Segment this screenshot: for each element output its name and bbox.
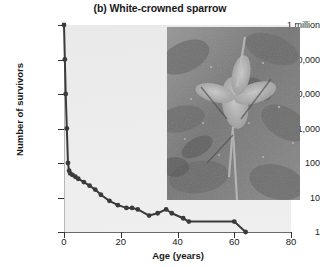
habitat-photograph (167, 27, 300, 200)
x-tick-mark (178, 232, 179, 238)
y-axis-line (64, 25, 65, 233)
page-title: (b) White-crowned sparrow (0, 2, 320, 14)
y-tick-mark (58, 163, 64, 164)
y-tick-mark (58, 25, 64, 26)
x-tick-mark (291, 232, 292, 238)
x-axis-label: Age (years) (64, 250, 292, 261)
y-tick-mark (58, 129, 64, 130)
figure-panel: (b) White-crowned sparrow Number of surv… (0, 0, 320, 267)
y-tick-mark (58, 198, 64, 199)
x-tick-mark (234, 232, 235, 238)
y-tick-mark (58, 60, 64, 61)
x-tick-mark (64, 232, 65, 238)
y-axis-label: Number of survivors (14, 45, 25, 175)
y-tick-mark (58, 94, 64, 95)
x-tick-mark (121, 232, 122, 238)
